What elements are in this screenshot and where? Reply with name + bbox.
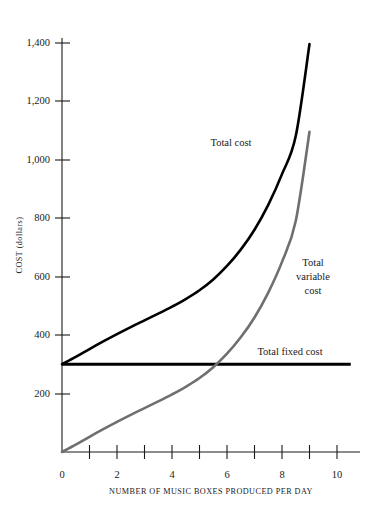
y-tick-label-800: 800	[34, 212, 50, 223]
total-variable-cost-curve	[62, 132, 310, 452]
label-total-cost: Total cost	[211, 137, 252, 148]
y-axis-title: COST (dollars)	[15, 217, 24, 274]
label-variable-line-2: variable	[296, 271, 330, 282]
x-tick-label-4: 4	[169, 469, 175, 480]
y-tick-label-1000: 1,000	[26, 154, 50, 165]
x-tick-label-2: 2	[114, 469, 119, 480]
label-total-fixed-cost: Total fixed cost	[257, 346, 322, 357]
y-tick-label-1400: 1,400	[26, 37, 50, 48]
label-total-variable-cost: Total variable cost	[296, 257, 330, 296]
label-variable-line-3: cost	[305, 285, 322, 296]
x-tick-label-10: 10	[332, 469, 343, 480]
x-tick-label-8: 8	[279, 469, 284, 480]
x-tick-label-6: 6	[224, 469, 229, 480]
x-tick-label-0: 0	[59, 469, 64, 480]
label-variable-line-1: Total	[302, 257, 324, 268]
y-tick-label-600: 600	[34, 271, 50, 282]
y-tick-label-400: 400	[34, 329, 50, 340]
y-tick-label-1200: 1,200	[26, 95, 50, 106]
x-axis-title: NUMBER OF MUSIC BOXES PRODUCED PER DAY	[109, 487, 313, 496]
cost-curves-chart: 1,400 1,200 1,000 800 600 400 200 0 2 4 …	[0, 0, 388, 508]
total-cost-curve	[62, 44, 310, 364]
y-tick-label-200: 200	[34, 388, 50, 399]
chart-canvas: 1,400 1,200 1,000 800 600 400 200 0 2 4 …	[0, 0, 388, 508]
